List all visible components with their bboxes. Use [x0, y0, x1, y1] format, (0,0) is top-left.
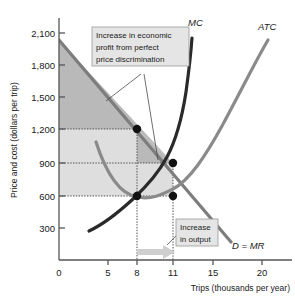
- min-atc-point: [169, 192, 177, 200]
- increase-in-output-arrow: [137, 245, 175, 259]
- price-discrimination-chart: 2,100 1,800 1,500 1,200 900 600 300 0 5 …: [0, 0, 295, 298]
- profit-annotation-line-1: Increase in economic: [96, 31, 172, 40]
- output-annotation-leader: [167, 236, 176, 245]
- y-axis-title: Price and cost (dollars per trip): [9, 82, 19, 198]
- y-tick-label-1800: 1,800: [31, 60, 55, 71]
- output-annotation-line-1: Increase: [180, 223, 211, 232]
- x-tick-label-20: 20: [257, 267, 268, 278]
- chart-canvas: 2,100 1,800 1,500 1,200 900 600 300 0 5 …: [0, 0, 295, 298]
- output-annotation: Increase in output: [176, 219, 218, 246]
- single-price-cost-point: [133, 192, 141, 200]
- y-tick-label-1200: 1,200: [31, 124, 55, 135]
- y-tick-label-1500: 1,500: [31, 92, 55, 103]
- x-axis-title: Trips (thousands per year): [191, 283, 291, 293]
- mc-curve-label: MC: [188, 17, 203, 28]
- single-price-economic-profit-region: [59, 163, 173, 196]
- atc-curve-label: ATC: [257, 21, 276, 32]
- output-annotation-line-2: in output: [180, 235, 211, 244]
- x-tick-label-5: 5: [105, 267, 110, 278]
- profit-annotation-line-3: price discrimination: [96, 55, 164, 64]
- price-discrimination-price-point: [133, 125, 141, 133]
- x-axis-ticks: [108, 260, 262, 265]
- x-tick-label-11: 11: [168, 267, 178, 278]
- y-tick-label-300: 300: [39, 223, 55, 234]
- x-tick-label-0: 0: [56, 267, 61, 278]
- leader-to-dark-region: [106, 74, 141, 101]
- x-tick-label-8: 8: [134, 267, 139, 278]
- efficient-output-point: [169, 159, 177, 167]
- y-axis-tick-labels: 2,100 1,800 1,500 1,200 900 600 300: [31, 28, 55, 234]
- arrow-shape: [137, 245, 175, 259]
- profit-annotation: Increase in economic profit from perfect…: [92, 27, 189, 66]
- y-tick-label-600: 600: [39, 191, 55, 202]
- x-tick-label-15: 15: [208, 267, 219, 278]
- demand-mr-curve-label: D = MR: [232, 240, 265, 251]
- y-tick-label-900: 900: [39, 158, 55, 169]
- profit-annotation-line-2: profit from perfect: [96, 43, 159, 52]
- y-tick-label-2100: 2,100: [31, 28, 55, 39]
- x-axis-tick-labels: 0 5 8 11 15 20: [56, 267, 267, 278]
